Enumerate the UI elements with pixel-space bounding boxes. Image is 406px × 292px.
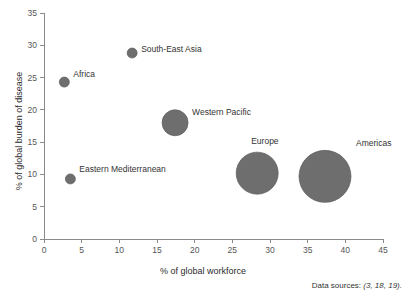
- y-tick-label: 15: [28, 137, 38, 147]
- x-axis-title: % of global workforce: [0, 266, 406, 276]
- data-bubbles: AfricaSouth-East AsiaEastern Mediterrane…: [59, 44, 391, 202]
- x-tick-label: 30: [265, 245, 275, 255]
- y-tick-label: 25: [28, 73, 38, 83]
- data-sources-refs: (3, 18, 19).: [363, 281, 402, 290]
- y-tick-label: 30: [28, 40, 38, 50]
- bubble-label: Americas: [356, 138, 391, 148]
- x-tick-label: 10: [115, 245, 125, 255]
- y-axis-title: % of global burden of disease: [14, 16, 24, 246]
- axis-lines: [44, 13, 383, 239]
- bubble-south-east-asia: [127, 48, 137, 58]
- bubble-africa: [59, 77, 69, 87]
- x-tick-label: 20: [190, 245, 200, 255]
- y-tick-label: 0: [32, 234, 37, 244]
- bubble-label: Europe: [251, 136, 279, 146]
- x-tick-label: 35: [303, 245, 313, 255]
- bubble-label: Eastern Mediterranean: [79, 164, 166, 174]
- plot-area: 05101520253035404505101520253035 AfricaS…: [0, 0, 406, 292]
- axes: 05101520253035404505101520253035: [28, 8, 388, 255]
- y-tick-label: 10: [28, 169, 38, 179]
- y-tick-label: 20: [28, 105, 38, 115]
- data-sources-label: Data sources:: [312, 281, 361, 290]
- y-tick-label: 5: [32, 202, 37, 212]
- bubble-western-pacific: [162, 110, 188, 136]
- x-tick-label: 45: [378, 245, 388, 255]
- bubble-eastern-mediterranean: [65, 174, 75, 184]
- x-tick-label: 40: [341, 245, 351, 255]
- data-sources-note: Data sources: (3, 18, 19).: [312, 281, 402, 290]
- x-tick-label: 0: [42, 245, 47, 255]
- bubble-americas: [299, 150, 351, 202]
- x-tick-label: 25: [228, 245, 238, 255]
- bubble-label: Western Pacific: [192, 107, 252, 117]
- y-tick-label: 35: [28, 8, 38, 18]
- bubble-label: South-East Asia: [141, 44, 202, 54]
- bubble-chart: 05101520253035404505101520253035 AfricaS…: [0, 0, 406, 292]
- bubble-europe: [236, 152, 278, 194]
- bubble-label: Africa: [73, 69, 95, 79]
- x-tick-label: 15: [152, 245, 162, 255]
- x-tick-label: 5: [79, 245, 84, 255]
